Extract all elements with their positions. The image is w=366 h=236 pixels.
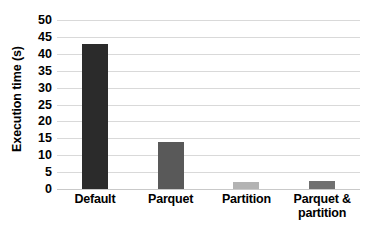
y-tick-label: 5 (0, 166, 52, 179)
y-tick-label: 15 (0, 132, 52, 145)
plot-area (57, 20, 360, 189)
bar-chart-figure: Execution time (s) 50454035302520151050 … (0, 0, 366, 236)
bar-default[interactable] (82, 44, 108, 189)
y-tick-label: 20 (0, 115, 52, 128)
bar-parquet[interactable] (158, 142, 184, 189)
y-tick-label: 35 (0, 64, 52, 77)
bar-parquet-partition[interactable] (309, 181, 335, 189)
y-tick-label: 10 (0, 149, 52, 162)
y-tick-label: 40 (0, 48, 52, 61)
y-tick-label: 45 (0, 31, 52, 44)
bars-group (57, 20, 360, 189)
x-tick-label-line: Parquet & (277, 192, 366, 206)
gridline (57, 189, 360, 190)
y-axis-tick-labels: 50454035302520151050 (0, 20, 52, 189)
y-tick-label: 50 (0, 14, 52, 27)
x-axis-tick-labels: DefaultParquetPartitionParquet &partitio… (57, 192, 360, 234)
x-tick-label-line: partition (277, 206, 366, 220)
y-tick-label: 25 (0, 98, 52, 111)
y-tick-label: 30 (0, 81, 52, 94)
bar-partition[interactable] (233, 182, 259, 189)
x-tick-label: Parquet &partition (277, 192, 366, 220)
y-tick-label: 0 (0, 183, 52, 196)
